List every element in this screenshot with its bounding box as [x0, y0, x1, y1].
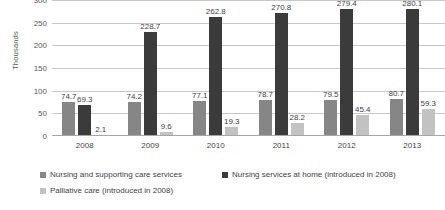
- bar-value-label: 74.7: [61, 93, 77, 101]
- bar-value-label: 79.5: [323, 91, 339, 99]
- bar-value-label: 74.2: [126, 93, 142, 101]
- plot-area: Thousands 050100150200250300 74.769.32.1…: [0, 0, 445, 160]
- bar-value-label: 28.2: [289, 114, 305, 122]
- bar-group: 80.7280.159.3: [380, 0, 445, 136]
- bar-value-label: 2.1: [95, 126, 106, 134]
- y-axis-tick-label: 200: [9, 41, 47, 50]
- legend-label: Nursing and supporting care services: [50, 170, 182, 179]
- bar-chart: Thousands 050100150200250300 74.769.32.1…: [0, 0, 445, 210]
- bar[interactable]: 74.7: [62, 102, 75, 136]
- bar-value-label: 69.3: [77, 96, 93, 104]
- bar[interactable]: 78.7: [259, 100, 272, 136]
- bar-value-label: 262.8: [206, 8, 226, 16]
- bar-value-label: 77.1: [192, 92, 208, 100]
- y-axis-tick-label: 100: [9, 86, 47, 95]
- legend-label: Nursing services at home (introduced in …: [232, 170, 396, 179]
- bar[interactable]: 80.7: [390, 99, 403, 136]
- x-axis-labels: 200820092010201120122013: [52, 138, 445, 154]
- legend-swatch-icon: [40, 188, 46, 194]
- y-axis-ticks: 050100150200250300: [0, 0, 47, 160]
- bar-value-label: 19.3: [224, 118, 240, 126]
- bar[interactable]: 270.8: [275, 13, 288, 136]
- y-axis-tick-label: 50: [9, 109, 47, 118]
- bar[interactable]: 262.8: [209, 17, 222, 136]
- gridlines-and-bars: 74.769.32.174.2228.79.677.1262.819.378.7…: [52, 0, 445, 136]
- bar-value-label: 80.7: [388, 90, 404, 98]
- y-axis-tick-label: 250: [9, 18, 47, 27]
- bar-group: 78.7270.828.2: [249, 0, 315, 136]
- bar-group: 74.769.32.1: [52, 0, 118, 136]
- y-axis-tick-label: 150: [9, 64, 47, 73]
- bar-value-label: 228.7: [140, 23, 160, 31]
- bar-value-label: 59.3: [420, 100, 436, 108]
- bar[interactable]: 279.4: [340, 9, 353, 136]
- bar[interactable]: 74.2: [128, 102, 141, 136]
- bar[interactable]: 280.1: [406, 9, 419, 136]
- bar-value-label: 45.4: [355, 106, 371, 114]
- bar[interactable]: 69.3: [78, 105, 91, 136]
- bar-value-label: 9.6: [161, 123, 172, 131]
- legend-item[interactable]: Nursing services at home (introduced in …: [222, 170, 396, 179]
- x-axis-label: 2013: [380, 138, 445, 154]
- bar-value-label: 280.1: [402, 0, 422, 8]
- legend-item[interactable]: Palliative care (introduced in 2008): [40, 186, 173, 195]
- x-axis-label: 2009: [118, 138, 184, 154]
- bar[interactable]: 77.1: [193, 101, 206, 136]
- bar[interactable]: 59.3: [422, 109, 435, 136]
- bar[interactable]: 45.4: [356, 115, 369, 136]
- y-axis-tick-label: 0: [9, 132, 47, 141]
- x-axis-line: [52, 135, 445, 136]
- y-axis-tick-label: 300: [9, 0, 47, 5]
- bar-value-label: 78.7: [257, 91, 273, 99]
- bar-value-label: 270.8: [271, 4, 291, 12]
- legend-swatch-icon: [222, 172, 228, 178]
- x-axis-label: 2011: [249, 138, 315, 154]
- bar-group: 79.5279.445.4: [314, 0, 380, 136]
- legend-item[interactable]: Nursing and supporting care services: [40, 170, 182, 179]
- x-axis-label: 2008: [52, 138, 118, 154]
- legend-swatch-icon: [40, 172, 46, 178]
- x-axis-label: 2010: [183, 138, 249, 154]
- legend-label: Palliative care (introduced in 2008): [50, 186, 173, 195]
- x-axis-label: 2012: [314, 138, 380, 154]
- bar-value-label: 279.4: [337, 0, 357, 8]
- legend: Nursing and supporting care servicesNurs…: [0, 168, 445, 210]
- bar-group: 77.1262.819.3: [183, 0, 249, 136]
- bar[interactable]: 228.7: [144, 32, 157, 136]
- bar-groups: 74.769.32.174.2228.79.677.1262.819.378.7…: [52, 0, 445, 136]
- bar-group: 74.2228.79.6: [118, 0, 184, 136]
- bar[interactable]: 79.5: [324, 100, 337, 136]
